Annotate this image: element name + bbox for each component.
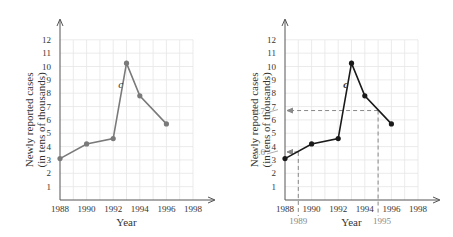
y-tick-label: 11 [42,48,51,58]
y-tick-label: 8 [47,88,52,98]
data-point [111,136,116,141]
x-tick-label: 1990 [78,204,97,214]
data-point [84,141,89,146]
x-tick-label: 1998 [409,204,428,214]
data-point [309,141,314,146]
annotation-y-label: 6.7 [254,106,266,116]
data-point [362,93,367,98]
x-tick-label: 1996 [157,204,176,214]
charts: 123456789101112198819901992199419961998Y… [0,0,453,237]
x-axis-label: Year [116,216,137,228]
chart-left: 123456789101112198819901992199419961998Y… [23,19,215,228]
data-point [137,93,142,98]
y-tick-label: 10 [42,62,52,72]
y-tick-label: 3 [47,155,52,165]
x-tick-label: 1998 [184,204,203,214]
x-tick-label: 1994 [131,204,150,214]
y-tick-label: 10 [267,62,277,72]
curve-label: c [118,78,123,90]
data-point [57,156,62,161]
arrow-icon [287,149,293,154]
y-tick-label: 2 [272,168,277,178]
data-point [282,156,287,161]
y-tick-label: 9 [47,75,52,85]
y-tick-label: 9 [272,75,277,85]
y-tick-label: 4 [47,142,52,152]
annotation-x-label: 1995 [373,216,392,226]
y-tick-label: 11 [267,48,276,58]
x-tick-label: 1992 [104,204,122,214]
y-tick-label: 12 [42,35,51,45]
y-axis-label: Newly reported cases(in tens of thousand… [23,72,48,167]
arrow-icon [287,108,293,113]
y-tick-label: 1 [272,182,277,192]
y-tick-label: 5 [47,128,52,138]
chart-right: 123456789101112198819901992199419961998Y… [248,19,440,228]
x-tick-label: 1990 [303,204,322,214]
y-tick-label: 2 [47,168,52,178]
y-tick-label: 12 [267,35,276,45]
data-point [336,136,341,141]
y-tick-label: 3 [272,155,277,165]
y-tick-label: 6 [272,115,277,125]
x-tick-label: 1996 [382,204,401,214]
x-tick-label: 1988 [51,204,70,214]
data-point [164,121,169,126]
y-tick-label: 4 [272,142,277,152]
y-tick-label: 6 [47,115,52,125]
x-tick-label: 1992 [329,204,347,214]
x-tick-label: 1994 [356,204,375,214]
data-point [389,121,394,126]
annotation-y-label: 3.6 [254,147,266,157]
y-tick-label: 5 [272,128,277,138]
y-tick-label: 1 [47,182,52,192]
x-tick-label: 1988 [276,204,295,214]
data-point [124,61,129,66]
y-tick-label: 8 [272,88,277,98]
x-axis-label: Year [341,216,362,228]
annotation-x-label: 1989 [289,216,308,226]
curve-label: c [343,78,348,90]
y-tick-label: 7 [47,102,52,112]
data-point [349,61,354,66]
